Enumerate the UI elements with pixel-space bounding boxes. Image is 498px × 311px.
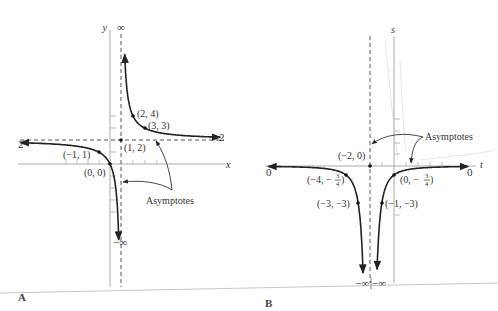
point-neg4-neg3-4 [344,173,348,177]
point-label-2-4: (2, 4) [137,108,159,120]
asymptote-pointer-a-horizontal [156,141,172,190]
bleed-through [385,40,495,160]
bottom-right-infinity-label-b: −∞ [372,277,386,289]
t-axis-label-b: t [480,159,483,170]
graph-b: s t 0 0 (−2, 0) (−4, − 3 4 ) (0, − 3 4 )… [265,24,483,309]
y-axis-label-a: y [102,22,108,33]
panel-label-b: B [265,297,273,309]
point-2-4 [131,114,135,118]
point-label-1-2: (1, 2) [124,142,146,154]
top-infinity-label-a: ∞ [117,21,125,33]
asymptotes-label-a: Asymptotes [146,195,194,206]
point-label-0-neg3-4: (0, − [400,174,419,186]
curve-a-right-branch [125,54,221,137]
point-label-3-3: (3, 3) [148,120,170,132]
svg-text:4: 4 [336,180,340,187]
svg-text:3: 3 [336,172,339,179]
graph-a: y ∞ x 2 2 (2, 4) (3, 3) (1, 2) (−1, 1) (… [18,21,231,303]
point-neg3-neg3 [356,201,360,205]
svg-text:): ) [430,174,433,186]
point-neg1-1 [97,150,101,154]
point-0-0 [108,162,112,166]
svg-text:3: 3 [425,172,428,179]
point-1-2 [119,138,123,142]
asymptote-pointer-a-vertical [123,181,172,190]
point-label-neg2-0: (−2, 0) [338,150,365,162]
point-label-neg4-neg3-4: (−4, − [307,174,332,186]
point-label-neg1-neg3: (−1, −3) [385,198,418,210]
point-neg1-neg3 [380,201,384,205]
bottom-rule [0,283,498,293]
right-limit-label-a: 2 [219,131,225,143]
bottom-infinity-label-a: −∞ [113,236,127,248]
figure: y ∞ x 2 2 (2, 4) (3, 3) (1, 2) (−1, 1) (… [0,0,498,311]
point-label-neg3-neg3: (−3, −3) [317,198,350,210]
fraction-neg4: 3 4 ) [335,172,344,187]
asymptote-pointer-b-horizontal [411,137,423,163]
point-neg2-0 [368,164,372,168]
x-axis-label-a: x [225,159,231,170]
left-limit-label-b: 0 [266,166,272,178]
fraction-0: 3 4 ) [424,172,433,187]
bottom-left-infinity-label-b: −∞ [355,277,369,289]
right-limit-label-b: 0 [467,166,473,178]
svg-text:4: 4 [425,180,429,187]
point-label-0-0: (0, 0) [84,167,106,179]
point-0-neg3-4 [392,173,396,177]
left-limit-label-a: 2 [18,138,24,150]
svg-text:): ) [341,174,344,186]
s-axis-label-b: s [391,24,395,35]
point-3-3 [143,126,147,130]
point-label-neg1-1: (−1, 1) [63,149,90,161]
asymptotes-label-b: Asymptotes [425,131,473,142]
curve-b-right-branch [377,167,468,270]
